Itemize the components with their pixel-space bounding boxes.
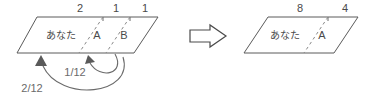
right-parallelogram-outline [244,17,358,53]
right-top-number-1: 4 [342,2,348,14]
left-top-number-2: 1 [142,2,148,14]
left-parallelogram [17,17,158,53]
transformation-arrow-shape [190,25,226,47]
right-segment-label-0: あなた [270,30,300,41]
left-segment-label-1: A [93,29,101,41]
arc-two-twelfths-label: 2/12 [21,82,42,94]
right-segment-label-1: A [318,29,326,41]
left-top-number-0: 2 [77,2,83,14]
left-top-number-1: 1 [113,2,119,14]
arc-one-twelfth-arrowhead [85,55,95,64]
diagram-canvas: 2 1 1 あなた A B 1/12 2/12 [0,0,376,102]
arc-one-twelfth-path [90,54,118,73]
left-segment-label-0: あなた [46,30,76,41]
diagram-svg: 2 1 1 あなた A B 1/12 2/12 [0,0,376,102]
right-parallelogram [244,17,358,53]
arc-one-twelfth [85,54,118,73]
arc-one-twelfth-label: 1/12 [64,66,85,78]
left-segment-label-2: B [120,29,127,41]
arc-two-twelfths-arrowhead [35,55,47,66]
left-parallelogram-outline [17,17,158,53]
right-top-number-0: 8 [297,2,303,14]
transformation-arrow [190,25,226,47]
